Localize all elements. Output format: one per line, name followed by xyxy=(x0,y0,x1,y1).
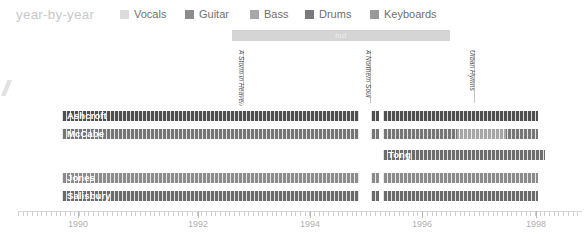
legend-item-label: Drums xyxy=(319,9,351,20)
album-marker-label: Urban Hymns xyxy=(469,50,476,91)
axis-year-label: 1990 xyxy=(68,219,88,229)
axis-line xyxy=(18,211,582,212)
timeline-row-ashcroft[interactable]: Ashcroft xyxy=(18,111,582,121)
legend-item-vocals[interactable]: Vocals xyxy=(120,9,166,20)
legend-swatch-icon xyxy=(120,10,129,19)
album-marker-label: A Northern Soul xyxy=(365,50,372,98)
member-name-label: Ashcroft xyxy=(67,109,107,122)
album-marker-line: A Storm in Heaven xyxy=(243,50,244,103)
album-marker-label: A Storm in Heaven xyxy=(238,50,245,106)
legend-swatch-icon xyxy=(370,10,379,19)
axis-major-tick xyxy=(536,211,537,218)
legend-swatch-icon xyxy=(250,10,259,19)
timeline-segment[interactable] xyxy=(62,129,359,139)
timeline-segment[interactable] xyxy=(371,129,379,139)
timeline-segment[interactable] xyxy=(506,129,538,139)
x-axis: 19901992199419961998 xyxy=(18,211,582,241)
legend-item-label: Keyboards xyxy=(384,9,437,20)
phase-bar-label: hut xyxy=(335,31,346,40)
legend-item-label: Vocals xyxy=(134,9,166,20)
axis-major-tick xyxy=(422,211,423,218)
timeline-segment[interactable] xyxy=(383,111,538,121)
axis-year-label: 1996 xyxy=(412,219,432,229)
axis-year-label: 1998 xyxy=(526,219,546,229)
axis-major-tick xyxy=(310,211,311,218)
legend-item-keyboards[interactable]: Keyboards xyxy=(370,9,437,20)
member-name-label: Tong xyxy=(388,148,411,161)
timeline-segment[interactable] xyxy=(62,173,359,183)
timeline-row-tong[interactable]: Tong xyxy=(18,150,582,160)
legend-item-drums[interactable]: Drums xyxy=(305,9,351,20)
timeline-segment[interactable] xyxy=(371,111,379,121)
axis-major-tick xyxy=(198,211,199,218)
album-marker-line: Urban Hymns xyxy=(474,50,475,103)
timeline-segment[interactable] xyxy=(383,173,538,183)
member-name-label: McCabe xyxy=(67,127,104,140)
axis-year-label: 1992 xyxy=(188,219,208,229)
timeline-segment[interactable] xyxy=(383,129,457,139)
chart-header: year-by-year VocalsGuitarBassDrumsKeyboa… xyxy=(0,0,586,30)
legend-swatch-icon xyxy=(305,10,314,19)
phase-bar-hut: hut xyxy=(232,30,450,41)
legend-swatch-icon xyxy=(185,10,194,19)
legend-item-guitar[interactable]: Guitar xyxy=(185,9,229,20)
timeline-segment[interactable] xyxy=(371,173,379,183)
legend-item-label: Guitar xyxy=(199,9,229,20)
timeline-segment[interactable] xyxy=(371,191,379,201)
album-marker-line: A Northern Soul xyxy=(370,50,371,103)
timeline-plot: AshcroftMcCabeTongJonesSalisbury xyxy=(18,103,582,211)
member-name-label: Jones xyxy=(67,171,95,184)
timeline-row-jones[interactable]: Jones xyxy=(18,173,582,183)
timeline-segment[interactable] xyxy=(383,191,538,201)
page-title: year-by-year xyxy=(16,7,94,22)
timeline-row-salisbury[interactable]: Salisbury xyxy=(18,191,582,201)
legend-item-label: Bass xyxy=(264,9,288,20)
axis-major-tick xyxy=(78,211,79,218)
corner-decoration-icon xyxy=(1,80,12,96)
member-name-label: Salisbury xyxy=(67,189,111,202)
axis-year-label: 1994 xyxy=(300,219,320,229)
legend-item-bass[interactable]: Bass xyxy=(250,9,288,20)
timeline-row-mccabe[interactable]: McCabe xyxy=(18,129,582,139)
timeline-segment[interactable] xyxy=(457,129,506,139)
